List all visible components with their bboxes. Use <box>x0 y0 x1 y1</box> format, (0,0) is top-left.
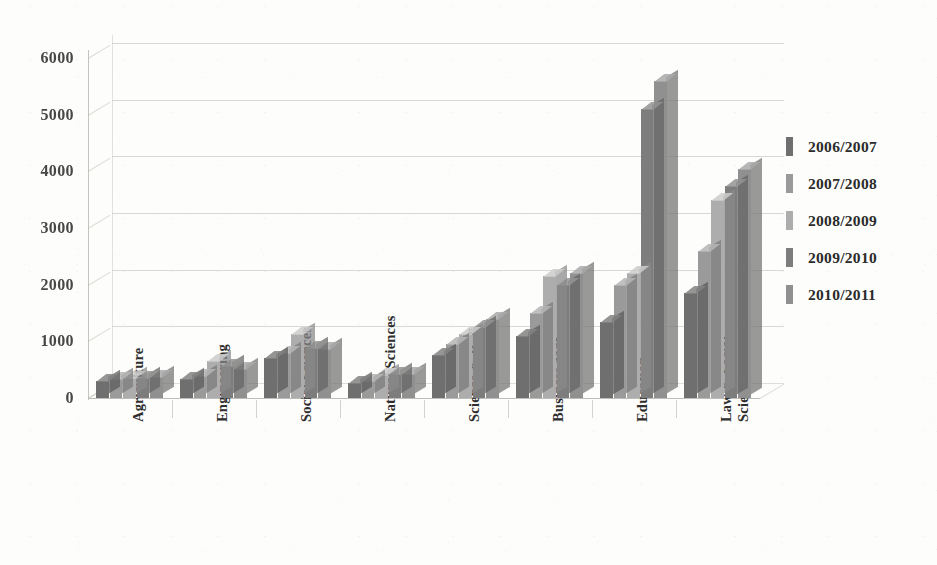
legend-label: 2008/2009 <box>808 212 877 230</box>
gridline-5000 <box>112 100 784 101</box>
bar-side <box>498 307 510 394</box>
bar-face <box>96 381 108 398</box>
gridline-2000 <box>112 270 784 271</box>
legend-item[interactable]: 2008/2009 <box>786 202 936 239</box>
depth-tick-5000 <box>88 101 111 115</box>
y-axis-tick-label: 1000 <box>0 332 74 350</box>
category-tick <box>676 400 677 418</box>
bar <box>600 322 612 399</box>
chart-legend: 2006/20072007/20082008/20092009/20102010… <box>786 128 936 313</box>
bar-side <box>709 239 721 394</box>
bar <box>180 379 192 398</box>
legend-swatch-icon <box>786 137 793 156</box>
y-axis-tick-label: 6000 <box>0 49 74 67</box>
y-axis-tick-label: 2000 <box>0 276 74 294</box>
floor-right-edge <box>760 384 785 399</box>
bar <box>96 381 108 398</box>
bar-face <box>684 293 696 398</box>
depth-tick-3000 <box>88 215 111 229</box>
legend-label: 2010/2011 <box>808 286 876 304</box>
category-tick <box>256 400 257 418</box>
y-axis-tick-label: 4000 <box>0 162 74 180</box>
legend-label: 2007/2008 <box>808 175 877 193</box>
y-axis-line <box>88 50 89 400</box>
y-axis-tick-label: 5000 <box>0 106 74 124</box>
legend-item[interactable]: 2007/2008 <box>786 165 936 202</box>
legend-item[interactable]: 2006/2007 <box>786 128 936 165</box>
depth-tick-1000 <box>88 328 111 342</box>
bar <box>432 355 444 398</box>
y-axis-back-line <box>112 35 113 385</box>
legend-label: 2009/2010 <box>808 249 877 267</box>
legend-label: 2006/2007 <box>808 138 877 156</box>
bar-side <box>612 310 624 394</box>
bar-side <box>541 302 553 394</box>
bar-side <box>625 273 637 394</box>
bar-side <box>750 157 762 394</box>
bar <box>348 383 360 398</box>
bar-face <box>264 358 276 398</box>
bar <box>516 336 528 398</box>
legend-item[interactable]: 2009/2010 <box>786 239 936 276</box>
legend-swatch-icon <box>786 285 793 304</box>
gridline-6000 <box>112 43 784 44</box>
bar-side <box>736 174 748 394</box>
bar-side <box>639 262 651 394</box>
bar-face <box>516 336 528 398</box>
bar-side <box>555 265 567 394</box>
bar-face <box>348 383 360 398</box>
legend-item[interactable]: 2010/2011 <box>786 276 936 313</box>
bar-side <box>696 282 708 394</box>
depth-tick-2000 <box>88 271 111 285</box>
bar-face <box>600 322 612 399</box>
depth-tick-4000 <box>88 158 111 172</box>
depth-tick-6000 <box>88 45 111 59</box>
category-tick <box>592 400 593 418</box>
legend-swatch-icon <box>786 211 793 230</box>
category-tick <box>424 400 425 418</box>
x-axis-line <box>88 398 760 399</box>
bar-face <box>180 379 192 398</box>
bar-side <box>666 69 678 394</box>
bar-side <box>723 188 735 394</box>
gridline-1000 <box>112 326 784 327</box>
y-axis-tick-label: 3000 <box>0 219 74 237</box>
bar-side <box>568 273 580 394</box>
y-axis-tick-label: 0 <box>0 389 74 407</box>
category-tick <box>508 400 509 418</box>
category-tick <box>340 400 341 418</box>
bar <box>684 293 696 398</box>
chart-container: 0100020003000400050006000AgricultureEngi… <box>0 0 937 565</box>
bar-side <box>582 262 594 394</box>
gridline-4000 <box>112 156 784 157</box>
category-tick <box>172 400 173 418</box>
bar <box>264 358 276 398</box>
bar-side <box>484 316 496 394</box>
legend-swatch-icon <box>786 174 793 193</box>
bar-side <box>652 98 664 394</box>
bar-face <box>432 355 444 398</box>
legend-swatch-icon <box>786 248 793 267</box>
gridline-3000 <box>112 213 784 214</box>
